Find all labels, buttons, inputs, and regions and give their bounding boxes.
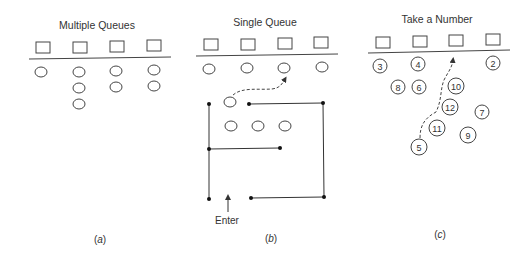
- customer-icon: [110, 82, 122, 92]
- server-icon: [278, 38, 292, 49]
- ticket-5: 5: [411, 139, 427, 155]
- svg-text:12: 12: [445, 103, 455, 113]
- svg-text:9: 9: [465, 131, 470, 141]
- customer-icon: [279, 121, 291, 131]
- server-icon: [36, 42, 50, 53]
- panel-multiple-queues: Multiple Queues (a): [29, 19, 171, 245]
- counter-line: [368, 50, 510, 53]
- customer-icon: [224, 97, 236, 107]
- server-icon: [376, 37, 390, 48]
- panel-a-title: Multiple Queues: [59, 19, 135, 31]
- ticket-9: 9: [460, 127, 476, 143]
- ticket-4: 4: [411, 57, 425, 71]
- customer-icon: [73, 99, 85, 109]
- customer-icon: [110, 66, 122, 76]
- ticket-6: 6: [412, 80, 426, 94]
- servers-b: [204, 37, 328, 50]
- ticket-8: 8: [391, 80, 405, 94]
- server-icon: [73, 42, 87, 53]
- enter-label: Enter: [215, 215, 240, 226]
- server-icon: [449, 35, 463, 46]
- svg-text:3: 3: [377, 62, 382, 72]
- server-icon: [413, 36, 427, 47]
- server-icon: [486, 34, 500, 45]
- panel-c-title: Take a Number: [401, 13, 473, 25]
- svg-text:11: 11: [432, 124, 441, 134]
- svg-text:7: 7: [479, 108, 484, 118]
- server-icon: [204, 39, 218, 50]
- customer-icon: [73, 67, 85, 77]
- customer-icon: [225, 121, 237, 131]
- customer-icon: [203, 64, 215, 74]
- panel-single-queue: Single Queue: [196, 16, 338, 244]
- servers-a: [36, 40, 161, 53]
- ticket-7: 7: [475, 105, 489, 119]
- svg-text:4: 4: [415, 60, 420, 70]
- server-icon: [110, 41, 124, 52]
- customer-icon: [252, 121, 264, 131]
- server-icon: [314, 37, 328, 48]
- customer-icon: [241, 63, 253, 73]
- panel-b-title: Single Queue: [233, 16, 297, 28]
- ticket-10: 10: [448, 78, 464, 94]
- panel-b-caption: (b): [265, 233, 277, 244]
- ticket-customers: 3 4 2 8 6 10 12 7 11 9 5: [373, 56, 500, 155]
- customers-a: [35, 65, 160, 109]
- panel-c-caption: (c): [434, 229, 446, 240]
- svg-text:5: 5: [416, 143, 421, 153]
- panel-take-a-number: Take a Number 3 4 2 8 6 10 12 7 11 9 5 (…: [368, 13, 510, 240]
- panel-a-caption: (a): [94, 234, 106, 245]
- customer-icon: [73, 83, 85, 93]
- customer-icon: [316, 62, 328, 72]
- customer-icon: [35, 67, 47, 77]
- queue-ropes: [209, 103, 324, 199]
- ticket-11: 11: [429, 120, 445, 136]
- servers-c: [376, 34, 500, 48]
- dashed-arrow-to-server: [233, 79, 285, 95]
- rope-posts: [207, 101, 326, 201]
- server-icon: [241, 39, 255, 50]
- ticket-2: 2: [486, 56, 500, 70]
- customer-icon: [278, 63, 290, 73]
- queue-diagram: Multiple Queues (a) Single Queue: [0, 0, 526, 261]
- customers-b: [203, 62, 328, 131]
- ticket-3: 3: [373, 59, 387, 73]
- counter-line: [29, 57, 171, 59]
- server-icon: [147, 40, 161, 51]
- svg-text:10: 10: [451, 82, 461, 92]
- svg-text:2: 2: [490, 59, 495, 69]
- svg-text:8: 8: [395, 83, 400, 93]
- svg-text:6: 6: [416, 83, 421, 93]
- customer-icon: [148, 65, 160, 75]
- counter-line: [196, 54, 338, 56]
- customer-icon: [148, 81, 160, 91]
- ticket-12: 12: [442, 99, 458, 115]
